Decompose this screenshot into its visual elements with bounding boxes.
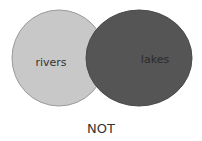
set-label-rivers: rivers — [35, 56, 66, 69]
venn-diagram: rivers lakes — [0, 0, 202, 141]
set-label-lakes: lakes — [141, 53, 170, 66]
operation-caption: NOT — [0, 121, 202, 136]
set-circle-lakes — [86, 10, 192, 106]
